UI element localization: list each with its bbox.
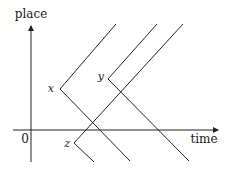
- event-x-label: x: [48, 82, 55, 95]
- event-z: z: [63, 24, 183, 162]
- place-axis-label: place: [15, 7, 48, 21]
- event-x: x: [48, 24, 130, 161]
- event-z-backward-line: [74, 143, 94, 162]
- spacetime-diagram: place time 0 x y z: [0, 0, 230, 172]
- event-z-label: z: [63, 137, 70, 150]
- time-axis-label: time: [190, 132, 217, 146]
- event-y-label: y: [97, 70, 105, 83]
- event-x-backward-line: [60, 89, 130, 161]
- event-y-forward-line: [108, 24, 157, 79]
- event-x-forward-line: [60, 24, 116, 89]
- event-y-backward-line: [108, 79, 189, 161]
- origin-label: 0: [21, 132, 29, 146]
- event-z-forward-line: [74, 24, 183, 143]
